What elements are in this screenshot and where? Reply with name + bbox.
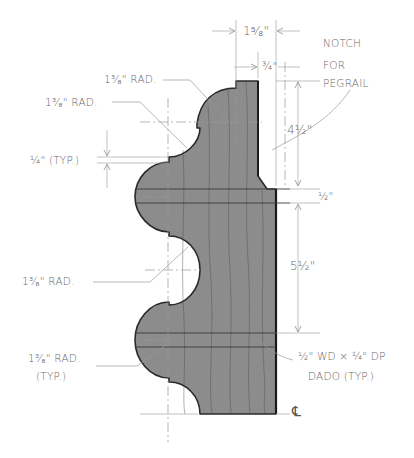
dado-spacing-dimension: ½"	[318, 191, 333, 202]
centerline-symbol: ℄	[292, 404, 301, 418]
molding-profile	[135, 81, 276, 414]
step-dimension-label: ¼" (TYP.)	[30, 155, 79, 166]
middle-section-dimension: 5½"	[290, 260, 315, 272]
dado-note-line2: DADO (TYP.)	[308, 371, 374, 382]
dado-note-line1: ½" WD × ¼" DP	[298, 351, 386, 362]
notch-width-dimension: ¾"	[262, 61, 277, 72]
notch-note-line3: PEGRAIL	[323, 78, 369, 89]
radius-label-bottom-line2: (TYP.)	[36, 371, 66, 382]
molding-profile-drawing	[0, 0, 414, 458]
top-section-dimension: 4½"	[287, 124, 312, 136]
notch-note-line1: NOTCH	[323, 38, 361, 49]
radius-label-top: 1³⁄₈" RAD.	[104, 74, 157, 85]
radius-label-middle: 1³⁄₈" RAD.	[22, 276, 75, 287]
radius-label-bottom-line1: 1³⁄₈" RAD.	[28, 353, 81, 364]
notch-note-line2: FOR	[323, 60, 345, 71]
radius-label-upper: 1³⁄₈" RAD.	[45, 97, 98, 108]
overall-width-dimension: 1⁵⁄₈"	[243, 25, 269, 37]
